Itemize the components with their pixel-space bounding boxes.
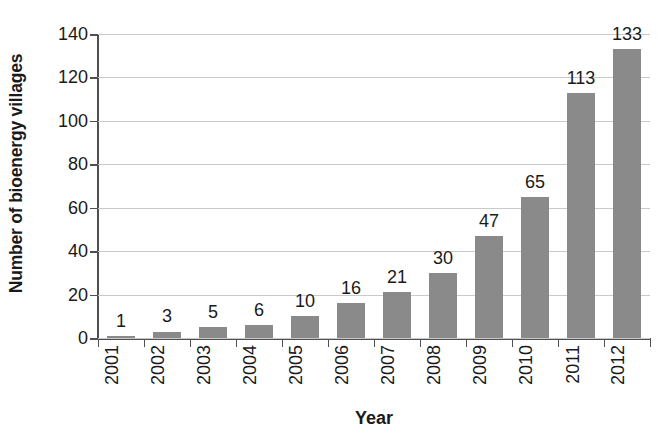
y-tick-label-60: 60 (30, 199, 88, 217)
y-tick-label-20: 20 (30, 286, 88, 304)
x-cat-label-2001: 2001 (110, 345, 132, 403)
bar-value-label-2010: 65 (512, 173, 558, 191)
x-cat-label-text: 2006 (331, 345, 353, 385)
x-tick-mark-3 (236, 339, 237, 347)
x-tick-mark-5 (328, 339, 329, 347)
x-cat-label-text: 2011 (562, 345, 584, 384)
x-cat-label-2004: 2004 (248, 345, 270, 403)
y-tick-mark-40 (90, 251, 98, 253)
y-tick-label-120: 120 (30, 68, 88, 86)
y-tick-label-40: 40 (30, 242, 88, 260)
bar-2009[interactable] (475, 236, 503, 338)
bar-2007[interactable] (383, 292, 411, 338)
x-cat-label-2012: 2012 (616, 345, 638, 403)
x-tick-mark-8 (466, 339, 467, 347)
bar-value-label-2005: 10 (282, 292, 328, 310)
y-tick-mark-0 (90, 338, 98, 340)
bar-value-label-2011: 113 (558, 69, 604, 87)
x-tick-mark-7 (420, 339, 421, 347)
x-cat-label-2011: 2011 (570, 345, 592, 403)
x-cat-label-2008: 2008 (432, 345, 454, 403)
x-cat-label-text: 2001 (101, 345, 123, 385)
bar-value-label-2004: 6 (236, 301, 282, 319)
y-tick-label-80: 80 (30, 155, 88, 173)
bar-value-label-2006: 16 (328, 279, 374, 297)
x-cat-label-2006: 2006 (340, 345, 362, 403)
y-tick-label-140: 140 (30, 25, 88, 43)
x-tick-mark-4 (282, 339, 283, 347)
x-cat-label-2007: 2007 (386, 345, 408, 403)
bar-chart: Number of bioenergy villages 02040608010… (0, 0, 662, 437)
bar-2001[interactable] (107, 336, 135, 338)
bar-value-label-2012: 133 (604, 25, 650, 43)
bar-2008[interactable] (429, 273, 457, 338)
y-tick-mark-140 (90, 34, 98, 36)
y-tick-mark-80 (90, 164, 98, 166)
bar-2003[interactable] (199, 327, 227, 338)
x-cat-label-2002: 2002 (156, 345, 178, 403)
x-tick-mark-11 (604, 339, 605, 347)
x-cat-label-text: 2009 (469, 345, 491, 385)
x-cat-label-text: 2010 (515, 345, 537, 385)
gridline-140 (98, 34, 650, 35)
x-tick-mark-10 (558, 339, 559, 347)
bar-value-label-2007: 21 (374, 268, 420, 286)
x-cat-label-text: 2002 (147, 345, 169, 385)
y-tick-label-0: 0 (30, 329, 88, 347)
bar-value-label-2003: 5 (190, 303, 236, 321)
x-cat-label-text: 2012 (607, 345, 629, 385)
y-tick-mark-100 (90, 121, 98, 123)
x-cat-label-text: 2008 (423, 345, 445, 385)
bar-2012[interactable] (613, 49, 641, 338)
y-tick-mark-120 (90, 77, 98, 79)
x-tick-mark-12 (650, 339, 651, 347)
bar-2011[interactable] (567, 93, 595, 338)
x-cat-label-text: 2005 (285, 345, 307, 385)
bar-2010[interactable] (521, 197, 549, 338)
bar-value-label-2002: 3 (144, 307, 190, 325)
bar-2004[interactable] (245, 325, 273, 338)
y-tick-mark-20 (90, 295, 98, 297)
x-tick-mark-0 (98, 339, 99, 347)
x-cat-label-2005: 2005 (294, 345, 316, 403)
bar-value-label-2008: 30 (420, 249, 466, 267)
x-axis-title: Year (98, 408, 650, 429)
x-cat-label-2003: 2003 (202, 345, 224, 403)
x-tick-mark-2 (190, 339, 191, 347)
y-axis-tick-labels: 020406080100120140 (30, 0, 88, 437)
y-axis-title-text: Number of bioenergy villages (7, 53, 28, 292)
x-cat-label-2009: 2009 (478, 345, 500, 403)
bar-value-label-2001: 1 (98, 312, 144, 330)
bar-2006[interactable] (337, 303, 365, 338)
x-tick-mark-9 (512, 339, 513, 347)
x-cat-label-2010: 2010 (524, 345, 546, 403)
x-tick-mark-6 (374, 339, 375, 347)
x-cat-label-text: 2003 (193, 345, 215, 385)
x-cat-label-text: 2007 (377, 345, 399, 385)
bar-value-label-2009: 47 (466, 212, 512, 230)
x-cat-label-text: 2004 (239, 345, 261, 385)
y-tick-mark-60 (90, 208, 98, 210)
y-axis-title: Number of bioenergy villages (0, 0, 34, 346)
y-tick-label-100: 100 (30, 112, 88, 130)
bar-2005[interactable] (291, 316, 319, 338)
bar-2002[interactable] (153, 332, 181, 339)
x-tick-mark-1 (144, 339, 145, 347)
